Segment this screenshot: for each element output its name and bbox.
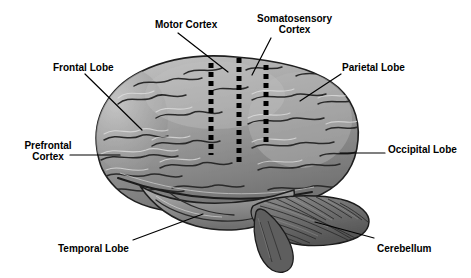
brain-illustration: [0, 0, 471, 278]
brain-diagram-figure: Motor Cortex Somatosensory Cortex Fronta…: [0, 0, 471, 278]
label-cerebellum: Cerebellum: [377, 243, 431, 254]
label-prefrontal-cortex: Prefrontal Cortex: [17, 140, 79, 162]
label-parietal-lobe: Parietal Lobe: [342, 62, 405, 73]
label-motor-cortex: Motor Cortex: [155, 19, 217, 30]
label-occipital-lobe: Occipital Lobe: [388, 144, 457, 155]
temporal-lobe-leader: [133, 214, 203, 240]
label-somatosensory-cortex: Somatosensory Cortex: [257, 13, 332, 35]
label-frontal-lobe: Frontal Lobe: [53, 62, 114, 73]
label-temporal-lobe: Temporal Lobe: [58, 243, 129, 254]
cerebrum-group: [88, 56, 358, 213]
